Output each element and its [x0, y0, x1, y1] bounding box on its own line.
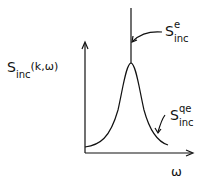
y-label-sub: inc: [16, 69, 31, 80]
quasielastic-label-sub: inc: [179, 118, 194, 128]
y-label-main: S: [7, 59, 16, 75]
elastic-label: S e inc: [165, 24, 174, 38]
elastic-label-sub: inc: [174, 34, 189, 44]
y-label-args: (k,ω): [31, 60, 59, 73]
elastic-label-sup: e: [174, 20, 180, 30]
y-axis-label: Sinc(k,ω): [7, 60, 58, 74]
elastic-pointer-arrow: [133, 32, 162, 41]
quasielastic-label-sup: qe: [179, 104, 192, 114]
elastic-label-main: S: [165, 23, 174, 39]
quasielastic-label-main: S: [170, 107, 179, 123]
quasielastic-label: S qe inc: [170, 108, 179, 122]
quasielastic-curve: [85, 63, 168, 147]
x-axis-label: ω: [171, 165, 182, 178]
quasielastic-pointer-arrow: [158, 115, 165, 132]
